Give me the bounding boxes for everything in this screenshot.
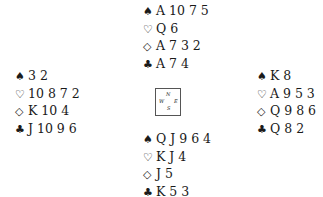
compass-box: N W E S <box>155 88 181 116</box>
diamond-icon: ◇ <box>143 167 156 184</box>
south-hearts: ♡K J 4 <box>143 149 211 167</box>
east-hearts: ♡A 9 5 3 <box>257 86 316 104</box>
club-icon: ♣ <box>143 185 156 197</box>
west-spades: ♠3 2 <box>15 68 80 86</box>
diamond-icon: ◇ <box>257 104 270 121</box>
compass-east: E <box>174 99 178 104</box>
heart-icon: ♡ <box>257 87 270 104</box>
club-icon: ♣ <box>257 122 270 139</box>
south-hand: ♠Q J 9 6 4 ♡K J 4 ◇J 5 ♣K 5 3 <box>143 131 211 196</box>
east-clubs: ♣Q 8 2 <box>257 121 316 139</box>
north-spades: ♠A 10 7 5 <box>143 3 209 21</box>
north-hearts: ♡Q 6 <box>143 21 209 39</box>
heart-icon: ♡ <box>15 87 28 104</box>
spade-icon: ♠ <box>257 69 270 86</box>
south-spades: ♠Q J 9 6 4 <box>143 131 211 149</box>
west-hand: ♠3 2 ♡10 8 7 2 ◇K 10 4 ♣J 10 9 6 <box>15 68 80 138</box>
club-icon: ♣ <box>143 57 156 74</box>
west-clubs: ♣J 10 9 6 <box>15 121 80 139</box>
south-diamonds: ◇J 5 <box>143 166 211 184</box>
north-hand: ♠A 10 7 5 ♡Q 6 ◇A 7 3 2 ♣A 7 4 <box>143 3 209 73</box>
east-diamonds: ◇Q 9 8 6 <box>257 103 316 121</box>
spade-icon: ♠ <box>143 132 156 149</box>
north-clubs: ♣A 7 4 <box>143 56 209 74</box>
compass-north: N <box>166 92 170 97</box>
diamond-icon: ◇ <box>143 39 156 56</box>
club-icon: ♣ <box>15 122 28 139</box>
spade-icon: ♠ <box>15 69 28 86</box>
compass-west: W <box>159 99 164 104</box>
east-hand: ♠K 8 ♡A 9 5 3 ◇Q 9 8 6 ♣Q 8 2 <box>257 68 316 138</box>
west-diamonds: ◇K 10 4 <box>15 103 80 121</box>
east-spades: ♠K 8 <box>257 68 316 86</box>
diamond-icon: ◇ <box>15 104 28 121</box>
north-diamonds: ◇A 7 3 2 <box>143 38 209 56</box>
heart-icon: ♡ <box>143 150 156 167</box>
west-hearts: ♡10 8 7 2 <box>15 86 80 104</box>
heart-icon: ♡ <box>143 22 156 39</box>
south-clubs: ♣K 5 3 <box>143 184 211 197</box>
spade-icon: ♠ <box>143 4 156 21</box>
compass-south: S <box>167 106 170 111</box>
